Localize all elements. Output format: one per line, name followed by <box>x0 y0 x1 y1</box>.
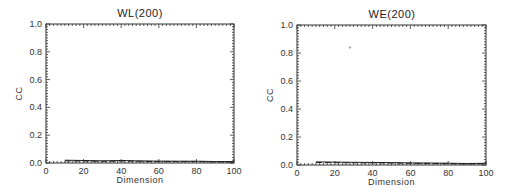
y-tick-label: 0.8 <box>280 48 293 58</box>
plot-frame <box>297 25 486 165</box>
y-tick-label: 0.0 <box>29 158 42 168</box>
y-axis-title: CC <box>265 88 275 102</box>
y-tick-label: 0.4 <box>280 104 293 114</box>
plot-frame <box>46 24 234 163</box>
plot-wl200: WL(200)0.00.20.40.60.81.0020406080100Dim… <box>14 7 242 185</box>
x-tick-label: 0 <box>294 168 299 178</box>
x-tick-label: 20 <box>79 166 89 176</box>
y-tick-label: 0.0 <box>280 160 293 170</box>
chart-canvas: WL(200)0.00.20.40.60.81.0020406080100Dim… <box>0 0 507 193</box>
y-tick-label: 0.6 <box>29 75 42 85</box>
y-tick-label: 0.2 <box>29 130 42 140</box>
x-tick-label: 80 <box>443 168 453 178</box>
stray-dot <box>349 46 351 48</box>
chart-title: WE(200) <box>369 8 416 20</box>
x-tick-label: 80 <box>191 166 201 176</box>
x-axis-title: Dimension <box>368 177 415 187</box>
x-axis-title: Dimension <box>116 175 163 185</box>
chart-title: WL(200) <box>117 7 163 19</box>
x-tick-label: 100 <box>226 166 241 176</box>
plot-we200: WE(200)0.00.20.40.60.81.0020406080100Dim… <box>265 8 494 187</box>
y-tick-label: 1.0 <box>280 20 293 30</box>
y-tick-label: 0.2 <box>280 132 293 142</box>
y-axis-title: CC <box>14 87 24 101</box>
x-tick-label: 100 <box>478 168 493 178</box>
y-tick-label: 0.8 <box>29 47 42 57</box>
x-tick-label: 20 <box>330 168 340 178</box>
x-tick-label: 0 <box>43 166 48 176</box>
y-tick-label: 0.6 <box>280 76 293 86</box>
y-tick-label: 0.4 <box>29 102 42 112</box>
y-tick-label: 1.0 <box>29 19 42 29</box>
